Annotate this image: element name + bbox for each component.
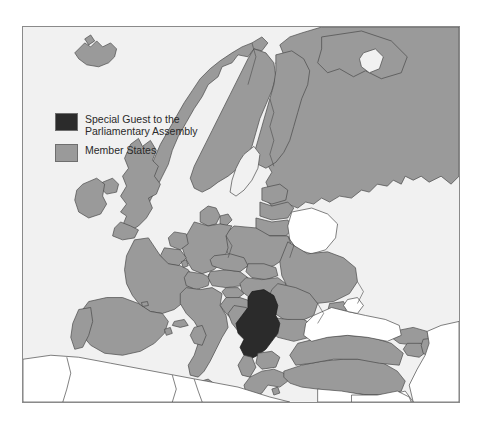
legend-label-member-states: Member States: [85, 144, 156, 157]
legend-label-special-guest: Special Guest to the Parliamentary Assem…: [85, 113, 198, 137]
map-legend: Special Guest to the Parliamentary Assem…: [55, 113, 225, 169]
country-andorra: [141, 302, 148, 307]
legend-swatch-special-guest-icon: [55, 113, 78, 131]
map-frame: Special Guest to the Parliamentary Assem…: [22, 26, 460, 403]
europe-map-figure: Special Guest to the Parliamentary Assem…: [0, 0, 482, 428]
legend-item-member-states: Member States: [55, 144, 225, 162]
legend-item-special-guest: Special Guest to the Parliamentary Assem…: [55, 113, 225, 137]
map-canvas: [23, 27, 459, 402]
legend-swatch-member-states-icon: [55, 144, 78, 162]
